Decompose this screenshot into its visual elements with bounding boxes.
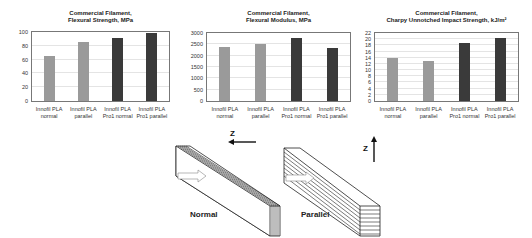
x-category-label: Innofil PLAnormal bbox=[205, 106, 245, 119]
bar bbox=[44, 56, 55, 101]
bar-chart-3: Commercial Filament,Charpy Unnotched Imp… bbox=[355, 0, 529, 132]
chart-title-line: Commercial Filament, bbox=[31, 10, 170, 17]
plot-area bbox=[31, 31, 170, 102]
y-tick-label: 16 bbox=[354, 49, 371, 55]
x-category-label-line: parallel bbox=[409, 113, 449, 120]
y-tick-label: 100 bbox=[0, 29, 28, 35]
x-category-label-line: Pro1 parallel bbox=[480, 113, 520, 120]
y-tick-label: 8 bbox=[354, 73, 371, 79]
x-category-label: Innofil PLAPro1 normal bbox=[444, 106, 484, 119]
y-tick-label: 0 bbox=[354, 98, 371, 104]
bar bbox=[78, 42, 89, 101]
chart-title-line: Flexural Strength, MPa bbox=[31, 17, 170, 24]
y-tick-label: 2 bbox=[354, 92, 371, 98]
bar bbox=[495, 38, 506, 101]
parallel-label: Parallel bbox=[301, 210, 329, 219]
x-category-label: Innofil PLAPro1 parallel bbox=[132, 106, 172, 119]
x-category-label-line: Pro1 parallel bbox=[132, 113, 172, 120]
y-tick-label: 18 bbox=[354, 42, 371, 48]
chart-title-line: Charpy Unnotched Impact Strength, kJ/m² bbox=[374, 17, 519, 24]
bar bbox=[387, 58, 398, 101]
y-tick-label: 40 bbox=[0, 70, 28, 76]
x-category-label: Innofil PLAparallel bbox=[241, 106, 281, 119]
bar bbox=[255, 44, 266, 101]
bar bbox=[459, 43, 470, 101]
y-tick-label: 2000 bbox=[179, 53, 203, 59]
bar bbox=[112, 38, 123, 101]
bar bbox=[327, 48, 338, 101]
z-arrow-left-icon bbox=[228, 139, 256, 145]
y-tick-label: 60 bbox=[0, 57, 28, 63]
x-category-label-line: Pro1 parallel bbox=[312, 113, 352, 120]
chart-title: Commercial Filament,Flexural Strength, M… bbox=[31, 10, 170, 24]
y-tick-label: 500 bbox=[179, 87, 203, 93]
y-tick-label: 20 bbox=[0, 84, 28, 90]
chart-title: Commercial Filament,Charpy Unnotched Imp… bbox=[374, 10, 519, 24]
z-arrow-up-icon bbox=[371, 136, 377, 162]
x-category-label: Innofil PLAnormal bbox=[373, 106, 413, 119]
y-tick-label: 0 bbox=[0, 98, 28, 104]
y-tick-label: 1000 bbox=[179, 75, 203, 81]
gridline bbox=[207, 43, 350, 44]
bar-chart-2: Commercial Filament,Flexural Modulus, MP… bbox=[180, 0, 361, 132]
y-tick-label: 1500 bbox=[179, 64, 203, 70]
normal-label: Normal bbox=[190, 210, 218, 219]
bar-chart-1: Commercial Filament,Flexural Strength, M… bbox=[0, 0, 180, 132]
x-category-label-line: Pro1 normal bbox=[276, 113, 316, 120]
y-tick-label: 4 bbox=[354, 86, 371, 92]
x-category-label: Innofil PLAparallel bbox=[409, 106, 449, 119]
x-category-label-line: normal bbox=[373, 113, 413, 120]
z-axis-label-parallel: Z bbox=[363, 144, 368, 153]
bar bbox=[146, 33, 157, 101]
y-tick-label: 14 bbox=[354, 55, 371, 61]
y-tick-label: 20 bbox=[354, 36, 371, 42]
y-tick-label: 22 bbox=[354, 30, 371, 36]
z-axis-label-normal: Z bbox=[230, 129, 235, 138]
x-category-label-line: normal bbox=[205, 113, 245, 120]
chart-title-line: Commercial Filament, bbox=[374, 10, 519, 17]
bar bbox=[291, 38, 302, 101]
x-category-label: Innofil PLAPro1 parallel bbox=[312, 106, 352, 119]
y-tick-label: 12 bbox=[354, 61, 371, 67]
y-tick-label: 10 bbox=[354, 67, 371, 73]
bar bbox=[219, 47, 230, 101]
bar bbox=[423, 61, 434, 101]
x-category-label: Innofil PLAPro1 parallel bbox=[480, 106, 520, 119]
parallel-specimen bbox=[284, 148, 380, 236]
y-tick-label: 0 bbox=[179, 98, 203, 104]
normal-specimen bbox=[176, 146, 280, 236]
plot-area bbox=[206, 32, 351, 102]
plot-area bbox=[374, 32, 519, 102]
orientation-diagram: Z Z Normal Parallel bbox=[160, 128, 400, 238]
chart-title-line: Commercial Filament, bbox=[206, 10, 351, 17]
y-tick-label: 80 bbox=[0, 43, 28, 49]
x-category-label-line: parallel bbox=[241, 113, 281, 120]
y-tick-label: 3000 bbox=[179, 30, 203, 36]
x-category-label-line: Pro1 normal bbox=[444, 113, 484, 120]
y-tick-label: 6 bbox=[354, 79, 371, 85]
chart-title: Commercial Filament,Flexural Modulus, MP… bbox=[206, 10, 351, 24]
y-tick-label: 2500 bbox=[179, 41, 203, 47]
x-category-label: Innofil PLAPro1 normal bbox=[276, 106, 316, 119]
chart-title-line: Flexural Modulus, MPa bbox=[206, 17, 351, 24]
